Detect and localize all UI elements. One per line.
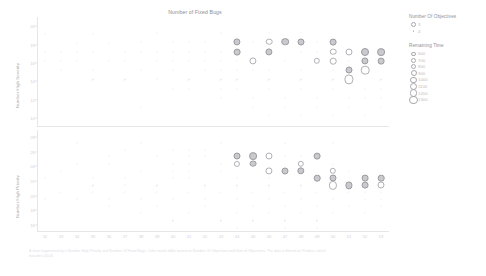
data-point[interactable] [380, 205, 381, 206]
data-point[interactable] [332, 163, 333, 164]
data-point[interactable] [156, 205, 157, 206]
data-bubble[interactable] [314, 58, 320, 64]
data-point[interactable] [172, 60, 173, 61]
data-point[interactable] [252, 205, 253, 206]
data-point[interactable] [188, 212, 189, 213]
data-bubble[interactable] [345, 182, 352, 189]
legend-entry-remaining-time[interactable]: 800 [409, 64, 481, 70]
data-point[interactable] [268, 70, 269, 71]
data-point[interactable] [316, 220, 317, 221]
data-point[interactable] [285, 143, 286, 144]
data-point[interactable] [268, 199, 269, 200]
data-bubble[interactable] [249, 152, 257, 160]
data-point[interactable] [252, 97, 253, 98]
data-point[interactable] [364, 191, 365, 192]
data-point[interactable] [172, 199, 173, 200]
data-bubble[interactable] [361, 66, 370, 75]
data-bubble[interactable] [265, 167, 272, 174]
data-point[interactable] [220, 51, 221, 52]
data-point[interactable] [156, 60, 157, 61]
data-point[interactable] [284, 191, 285, 192]
data-point[interactable] [140, 212, 141, 213]
data-bubble[interactable] [266, 153, 273, 160]
data-point[interactable] [156, 51, 157, 52]
data-point[interactable] [204, 156, 205, 157]
data-point[interactable] [124, 178, 125, 179]
data-bubble[interactable] [265, 48, 272, 55]
data-point[interactable] [172, 88, 173, 89]
data-point[interactable] [252, 70, 253, 71]
data-point[interactable] [188, 88, 189, 89]
data-point[interactable] [236, 185, 237, 186]
data-point[interactable] [76, 60, 77, 61]
data-point[interactable] [220, 143, 221, 144]
data-bubble[interactable] [346, 48, 353, 55]
data-bubble[interactable] [362, 182, 369, 189]
data-point[interactable] [364, 199, 365, 200]
data-point[interactable] [300, 79, 301, 80]
legend-entry-remaining-time[interactable]: 1100 [409, 84, 481, 90]
data-point[interactable] [140, 51, 141, 52]
data-point[interactable] [60, 170, 61, 171]
data-point[interactable] [300, 199, 301, 200]
data-bubble[interactable] [234, 153, 241, 160]
data-point[interactable] [92, 33, 93, 34]
data-point[interactable] [236, 79, 237, 80]
data-point[interactable] [348, 170, 349, 171]
data-point[interactable] [172, 51, 173, 52]
data-point[interactable] [316, 106, 317, 107]
data-point[interactable] [188, 163, 189, 164]
data-bubble[interactable] [266, 38, 273, 45]
data-bubble[interactable] [330, 49, 337, 56]
data-bubble[interactable] [330, 38, 337, 45]
data-point[interactable] [204, 70, 205, 71]
data-bubble[interactable] [314, 153, 321, 160]
data-point[interactable] [44, 51, 45, 52]
data-point[interactable] [332, 114, 333, 115]
data-point[interactable] [108, 60, 109, 61]
data-point[interactable] [252, 191, 253, 192]
data-point[interactable] [316, 41, 317, 42]
data-bubble[interactable] [378, 182, 385, 189]
legend-entry-remaining-time[interactable]: 1300 [409, 97, 481, 103]
data-point[interactable] [60, 51, 61, 52]
data-point[interactable] [76, 143, 77, 144]
data-point[interactable] [348, 60, 349, 61]
data-point[interactable] [221, 32, 222, 33]
data-point[interactable] [92, 191, 93, 192]
data-point[interactable] [220, 60, 221, 61]
data-point[interactable] [268, 114, 269, 115]
data-point[interactable] [92, 51, 93, 52]
data-point[interactable] [300, 212, 301, 213]
data-point[interactable] [284, 60, 285, 61]
data-point[interactable] [300, 185, 301, 186]
data-point[interactable] [332, 79, 333, 80]
data-point[interactable] [300, 88, 301, 89]
data-point[interactable] [172, 170, 173, 171]
data-point[interactable] [268, 177, 269, 178]
data-point[interactable] [76, 51, 77, 52]
data-point[interactable] [188, 170, 189, 171]
data-point[interactable] [156, 156, 157, 157]
data-point[interactable] [44, 33, 45, 34]
data-point[interactable] [236, 70, 237, 71]
data-bubble[interactable] [298, 160, 304, 166]
data-point[interactable] [60, 60, 61, 61]
data-bubble[interactable] [329, 181, 337, 189]
data-point[interactable] [140, 199, 141, 200]
data-point[interactable] [108, 199, 109, 200]
data-point[interactable] [204, 51, 205, 52]
data-point[interactable] [140, 170, 141, 171]
data-point[interactable] [220, 97, 221, 98]
data-point[interactable] [220, 191, 221, 192]
data-point[interactable] [364, 212, 365, 213]
data-point[interactable] [380, 199, 381, 200]
data-point[interactable] [140, 143, 141, 144]
data-point[interactable] [172, 163, 173, 164]
data-point[interactable] [236, 199, 237, 200]
data-point[interactable] [284, 205, 285, 206]
data-bubble[interactable] [234, 160, 240, 166]
data-point[interactable] [92, 185, 93, 186]
data-point[interactable] [348, 205, 349, 206]
data-point[interactable] [380, 88, 381, 89]
